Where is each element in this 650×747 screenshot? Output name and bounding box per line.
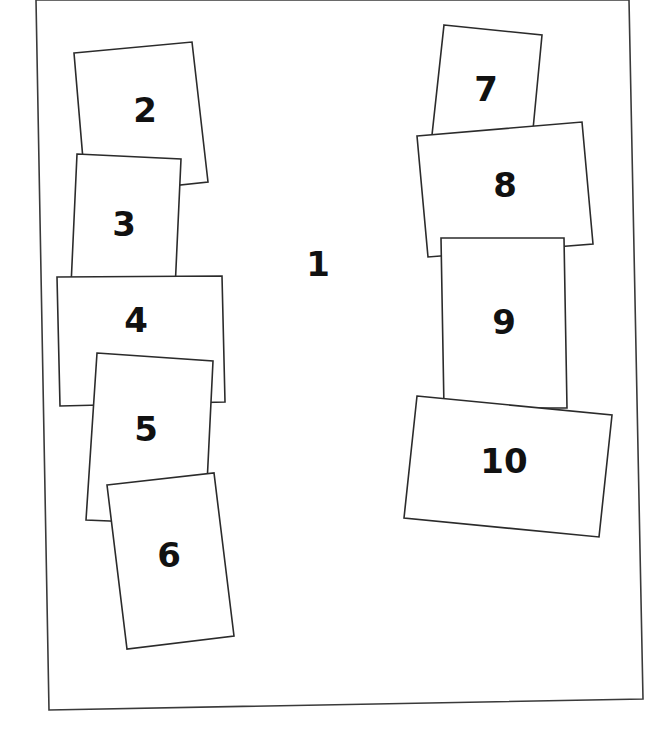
sheet-label: 7: [474, 69, 498, 109]
sheet-label: 2: [133, 90, 157, 130]
sheet-label: 8: [493, 165, 517, 205]
sheet-8: 8: [417, 122, 593, 257]
sheet-3: 3: [71, 154, 181, 290]
sheet-label: 6: [157, 535, 181, 575]
frame-label: 1: [306, 244, 330, 284]
sheet-label: 3: [112, 204, 136, 244]
sheet-label: 5: [134, 409, 158, 449]
sheet-label: 9: [492, 302, 516, 342]
sheet-label: 4: [124, 300, 148, 340]
sheet-7: 7: [432, 25, 542, 140]
sheet-label: 10: [480, 441, 527, 481]
sheet-9: 9: [441, 238, 567, 408]
sheet-layout-diagram: 1 2 3 4 5 6 7 8: [0, 0, 650, 747]
sheet-6: 6: [107, 473, 234, 649]
sheet-10: 10: [404, 396, 612, 537]
diagram-canvas: 1 2 3 4 5 6 7 8: [0, 0, 650, 747]
